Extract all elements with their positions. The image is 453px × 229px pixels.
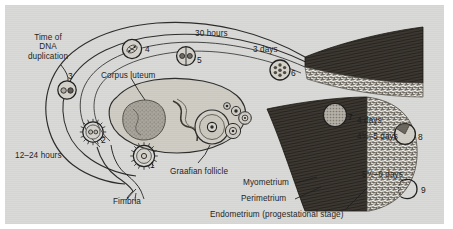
stage-number-5: 5 (197, 55, 202, 65)
stage-number-2: 2 (101, 135, 106, 145)
ovary (109, 78, 251, 153)
stage-number-1: 1 (150, 160, 155, 170)
corpus-luteum-body (123, 100, 166, 140)
dna-line-3: duplication (28, 52, 68, 61)
label-5h-6-days: 5½–6 days (362, 170, 403, 179)
label-corpus-luteum: Corpus luteum (101, 71, 156, 80)
label-myometrium: Myometrium (243, 178, 289, 187)
stage-5-two-cell (177, 47, 196, 66)
stage-number-6: 6 (291, 68, 296, 78)
stage-7-free-blastocyst (323, 103, 346, 126)
stage-number-9: 9 (421, 185, 426, 195)
stage-number-3: 3 (68, 71, 73, 81)
dna-line-1: Time of (34, 33, 62, 42)
dna-line-2: DNA (39, 42, 57, 51)
stage-4-first-cleavage (122, 39, 141, 58)
label-3-days: 3 days (253, 45, 278, 54)
label-perimetrium: Perimetrium (241, 194, 286, 203)
stage-number-7: 7 (348, 112, 353, 122)
stage-3-pronuclei (58, 81, 76, 99)
stage-6-morula (270, 60, 290, 80)
figure-root: Time of DNA duplication Corpus luteum Gr… (0, 0, 453, 229)
graafian-follicle-structure (195, 110, 229, 144)
label-4-days: 4 days (357, 116, 382, 125)
label-endometrium: Endometrium (progestational stage) (210, 210, 344, 219)
label-graafian-follicle: Graafian follicle (170, 167, 228, 176)
label-dna-duplication: Time of DNA duplication (17, 33, 79, 61)
label-4h-5-days: 4½–5 days (357, 132, 398, 141)
label-12-24-hours: 12–24 hours (15, 151, 62, 160)
label-30-hours: 30 hours (195, 29, 228, 38)
stage-number-8: 8 (418, 132, 423, 142)
diagram-panel: Time of DNA duplication Corpus luteum Gr… (5, 5, 444, 224)
stage-number-4: 4 (145, 44, 150, 54)
label-fimbria: Fimbria (113, 197, 141, 206)
